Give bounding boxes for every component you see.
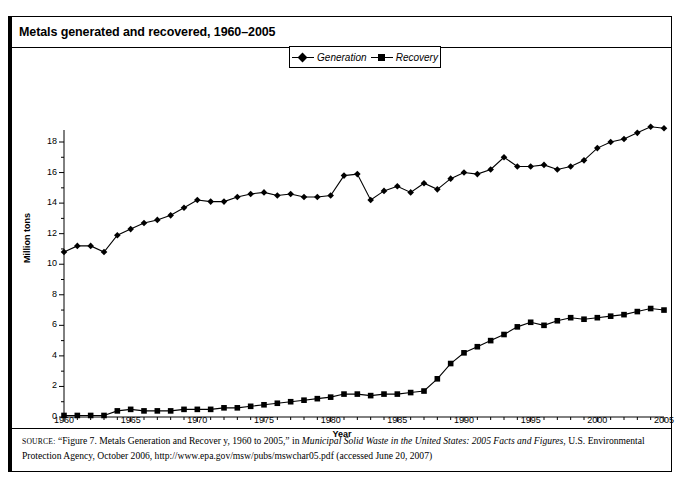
x-axis-tick-label: 1965 [113, 415, 149, 425]
data-point-recovery [168, 408, 174, 414]
data-point-recovery [515, 324, 521, 330]
data-point-generation [194, 197, 201, 204]
data-point-generation [474, 171, 481, 178]
data-point-recovery [435, 376, 441, 382]
data-point-recovery [195, 407, 201, 413]
data-point-recovery [288, 399, 294, 405]
data-point-recovery [661, 307, 667, 313]
data-point-generation [181, 204, 188, 211]
data-point-generation [461, 169, 468, 176]
plot-area: Million tons Year 0246810121416181960196… [12, 48, 672, 438]
data-point-recovery [301, 397, 307, 403]
data-point-recovery [128, 407, 134, 413]
data-point-generation [167, 212, 174, 219]
data-point-generation [141, 220, 148, 227]
x-axis-tick-label: 2005 [646, 415, 681, 425]
source-publication-title: Municipal Solid Waste in the United Stat… [302, 435, 564, 446]
data-point-generation [421, 180, 428, 187]
x-axis-tick-label: 1970 [179, 415, 215, 425]
data-point-recovery [395, 391, 401, 397]
y-axis-tick-label: 10 [37, 258, 57, 268]
legend-label-recovery: Recovery [396, 52, 438, 63]
x-axis-tick-label: 1980 [313, 415, 349, 425]
data-point-recovery [555, 318, 561, 324]
y-axis-tick-label: 16 [37, 167, 57, 177]
data-point-recovery [408, 390, 414, 396]
data-point-recovery [261, 402, 267, 408]
data-point-generation [381, 188, 388, 195]
data-point-recovery [568, 315, 574, 321]
data-point-generation [207, 198, 214, 205]
data-point-recovery [235, 405, 241, 411]
data-point-generation [341, 172, 348, 179]
data-point-generation [354, 171, 361, 178]
data-point-recovery [595, 315, 601, 321]
data-point-generation [287, 191, 294, 198]
data-point-generation [554, 166, 561, 173]
data-point-generation [567, 163, 574, 170]
data-point-recovery [421, 388, 427, 394]
series-line-generation [64, 127, 664, 252]
source-line1-a: “Figure 7. Metals Generation and Recover… [58, 435, 302, 446]
data-point-recovery [448, 361, 454, 367]
legend-item-generation[interactable]: Generation [292, 52, 366, 63]
data-point-recovery [155, 408, 161, 414]
data-point-recovery [141, 408, 147, 414]
x-axis-tick-label: 1990 [446, 415, 482, 425]
data-point-recovery [528, 319, 534, 325]
data-point-recovery [221, 405, 227, 411]
data-point-recovery [315, 396, 321, 402]
data-point-recovery [501, 332, 507, 338]
y-axis-title: Million tons [22, 213, 32, 263]
data-point-generation [301, 194, 308, 201]
data-point-generation [74, 243, 81, 250]
y-axis-tick-label: 14 [37, 197, 57, 207]
data-point-recovery [355, 391, 361, 397]
series-line-recovery [64, 309, 664, 416]
figure-container: Metals generated and recovered, 1960–200… [8, 16, 672, 472]
data-point-generation [407, 189, 414, 196]
x-axis-tick-label: 1960 [46, 415, 82, 425]
data-point-generation [607, 139, 614, 146]
y-axis-tick-label: 4 [37, 350, 57, 360]
chart-legend: Generation Recovery [289, 46, 441, 68]
data-point-recovery [208, 407, 214, 413]
data-point-generation [527, 163, 534, 170]
data-point-recovery [541, 323, 547, 329]
legend-label-generation: Generation [317, 52, 366, 63]
data-point-recovery [341, 391, 347, 397]
data-point-generation [87, 243, 94, 250]
x-axis-tick-label: 1985 [379, 415, 415, 425]
source-note: Source: “Figure 7. Metals Generation and… [22, 434, 662, 463]
chart-title: Metals generated and recovered, 1960–200… [19, 25, 275, 39]
figure-number-label: FIGURE 7.2 [10, 0, 60, 12]
data-point-generation [234, 194, 241, 201]
data-point-recovery [461, 350, 467, 356]
data-point-generation [647, 123, 654, 130]
data-point-generation [514, 163, 521, 170]
data-point-generation [634, 130, 641, 137]
data-point-generation [261, 189, 268, 196]
data-point-generation [247, 191, 254, 198]
data-point-generation [541, 162, 548, 169]
data-point-generation [314, 194, 321, 201]
data-point-recovery [328, 394, 334, 400]
data-point-recovery [248, 404, 254, 410]
data-point-generation [621, 136, 628, 143]
x-axis-tick-label: 1975 [246, 415, 282, 425]
legend-item-recovery[interactable]: Recovery [371, 52, 438, 63]
data-point-recovery [648, 306, 654, 312]
recovery-marker-icon [371, 53, 393, 62]
y-axis-tick-label: 8 [37, 289, 57, 299]
data-point-recovery [115, 408, 121, 414]
data-point-generation [394, 183, 401, 190]
data-point-recovery [181, 407, 187, 413]
data-point-generation [661, 125, 668, 132]
y-axis-tick-label: 18 [37, 136, 57, 146]
data-point-recovery [621, 312, 627, 318]
x-axis-tick-label: 2000 [579, 415, 615, 425]
source-line1-b: , U.S. [563, 435, 585, 446]
y-axis-tick-label: 6 [37, 319, 57, 329]
y-axis-tick-label: 12 [37, 228, 57, 238]
data-point-recovery [88, 413, 94, 419]
